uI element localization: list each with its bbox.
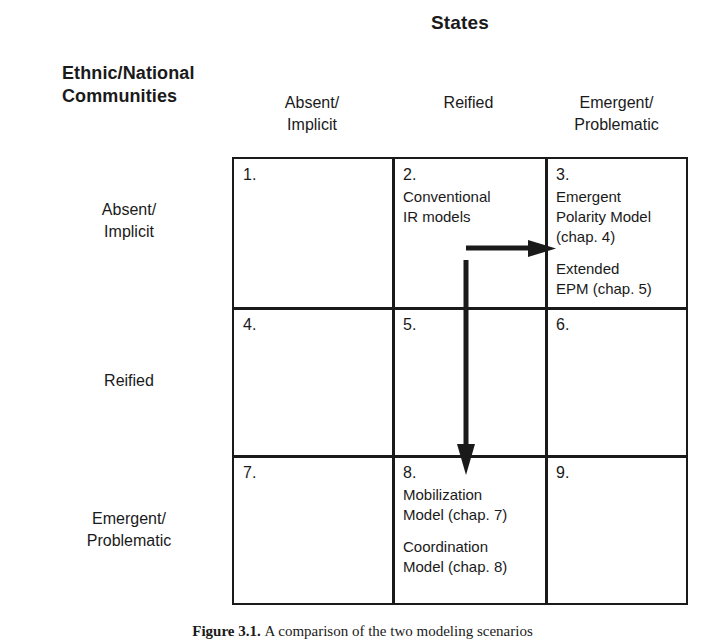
row-group-title-line2: Communities	[62, 85, 232, 108]
row-header-line1: Reified	[104, 372, 154, 389]
cell-line: Polarity Model	[556, 207, 683, 227]
row-header-reified: Reified	[36, 370, 222, 392]
cell-line: Coordination	[403, 537, 540, 557]
column-header-line2: Problematic	[545, 114, 688, 136]
matrix-cell-7: 7.	[234, 457, 394, 607]
row-header-line1: Emergent/	[92, 510, 166, 527]
cell-body: MobilizationModel (chap. 7)CoordinationM…	[403, 485, 540, 577]
arrow-down-to-cell-8-icon	[455, 260, 477, 475]
figure-caption-number: Figure 3.1.	[192, 623, 264, 639]
matrix-cell-3: 3. EmergentPolarity Model(chap. 4)Extend…	[547, 159, 690, 309]
cell-line: IR models	[403, 207, 540, 227]
column-header-line1: Absent/	[285, 94, 339, 111]
cell-line: Model (chap. 8)	[403, 557, 540, 577]
cell-line: Extended	[556, 259, 683, 279]
arrow-right-to-cell-3-icon	[466, 239, 556, 257]
cell-line: Emergent	[556, 187, 683, 207]
cell-body: ConventionalIR models	[403, 187, 540, 227]
matrix-cell-9: 9.	[547, 457, 690, 607]
cell-number: 6.	[556, 315, 683, 334]
cell-number: 2.	[403, 165, 540, 184]
column-header-line1: Reified	[444, 94, 494, 111]
row-header-line2: Problematic	[36, 530, 222, 552]
cell-line-gap	[403, 525, 540, 537]
cell-line-gap	[556, 247, 683, 259]
matrix-cell-1: 1.	[234, 159, 394, 309]
column-header-reified: Reified	[392, 92, 545, 114]
figure-caption: Figure 3.1. A comparison of the two mode…	[0, 622, 725, 641]
row-header-line1: Absent/	[102, 201, 156, 218]
cell-line: EPM (chap. 5)	[556, 279, 683, 299]
matrix-cell-4: 4.	[234, 309, 394, 457]
cell-number: 4.	[243, 315, 387, 334]
column-header-line1: Emergent/	[580, 94, 654, 111]
cell-body: EmergentPolarity Model(chap. 4)ExtendedE…	[556, 187, 683, 299]
cell-number: 3.	[556, 165, 683, 184]
figure-caption-text: A comparison of the two modeling scenari…	[264, 623, 532, 639]
row-header-absent-implicit: Absent/ Implicit	[36, 199, 222, 243]
cell-line: Conventional	[403, 187, 540, 207]
row-group-title: Ethnic/National Communities	[62, 62, 232, 108]
column-group-title: States	[232, 12, 688, 34]
cell-line: Mobilization	[403, 485, 540, 505]
column-header-emergent-problematic: Emergent/ Problematic	[545, 92, 688, 136]
matrix-cell-6: 6.	[547, 309, 690, 457]
column-header-line2: Implicit	[232, 114, 392, 136]
row-header-line2: Implicit	[36, 221, 222, 243]
cell-line: (chap. 4)	[556, 227, 683, 247]
cell-number: 7.	[243, 463, 387, 482]
cell-number: 9.	[556, 463, 683, 482]
column-header-absent-implicit: Absent/ Implicit	[232, 92, 392, 136]
matrix-cell-8: 8. MobilizationModel (chap. 7)Coordinati…	[394, 457, 547, 607]
row-header-emergent-problematic: Emergent/ Problematic	[36, 508, 222, 552]
cell-line: Model (chap. 7)	[403, 505, 540, 525]
row-group-title-line1: Ethnic/National	[62, 63, 195, 83]
cell-number: 1.	[243, 165, 387, 184]
